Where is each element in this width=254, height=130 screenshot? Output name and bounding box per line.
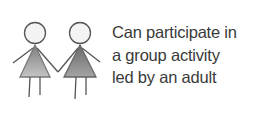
girl-right-figure	[58, 23, 100, 100]
girl-left-figure	[13, 23, 58, 98]
caption-line: led by an adult	[112, 66, 254, 89]
two-girls-holding-hands-icon	[0, 0, 110, 130]
activity-caption: Can participate in a group activity led …	[112, 21, 254, 89]
caption-line: Can participate in	[112, 21, 254, 44]
caption-line: a group activity	[112, 44, 254, 67]
